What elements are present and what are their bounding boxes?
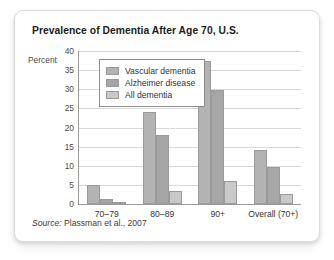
bar xyxy=(280,194,293,204)
legend-item: All dementia xyxy=(106,89,196,101)
page-title: Prevalence of Dementia After Age 70, U.S… xyxy=(32,25,239,36)
x-tick-label: 90+ xyxy=(210,209,225,219)
bar xyxy=(87,185,100,204)
bar xyxy=(100,199,113,204)
source-note: Source: Plassman et al., 2007 xyxy=(32,218,147,228)
bar xyxy=(211,90,224,204)
bar xyxy=(224,181,237,204)
y-tick-label: 35 xyxy=(65,65,74,75)
bar xyxy=(156,135,169,204)
source-text: Plassman et al., 2007 xyxy=(64,218,147,228)
y-tick-label: 10 xyxy=(65,161,74,171)
x-tick-label: Overall (70+) xyxy=(248,209,298,219)
bar-group: Overall (70+) xyxy=(254,51,293,204)
bar xyxy=(113,202,126,204)
legend-label: Vascular dementia xyxy=(125,66,196,76)
legend-swatch xyxy=(106,91,119,99)
y-axis-label: Percent xyxy=(28,55,57,65)
legend-item: Vascular dementia xyxy=(106,65,196,77)
y-tick-label: 40 xyxy=(65,46,74,56)
legend-swatch xyxy=(106,79,119,87)
legend-label: Alzheimer disease xyxy=(125,78,195,88)
y-tick-label: 25 xyxy=(65,103,74,113)
y-tick-label: 15 xyxy=(65,142,74,152)
legend-label: All dementia xyxy=(125,90,172,100)
chart-card: Prevalence of Dementia After Age 70, U.S… xyxy=(14,10,320,242)
y-tick-label: 5 xyxy=(69,180,74,190)
bar xyxy=(254,150,267,204)
legend-item: Alzheimer disease xyxy=(106,77,196,89)
chart-legend: Vascular dementiaAlzheimer diseaseAll de… xyxy=(99,59,205,107)
y-tick-label: 0 xyxy=(69,199,74,209)
y-tick-label: 30 xyxy=(65,84,74,94)
y-tick-label: 20 xyxy=(65,123,74,133)
legend-swatch xyxy=(106,67,119,75)
bar xyxy=(169,191,182,204)
x-tick-label: 80–89 xyxy=(150,209,174,219)
bar xyxy=(143,112,156,204)
source-prefix: Source: xyxy=(32,218,62,228)
bar xyxy=(267,167,280,204)
